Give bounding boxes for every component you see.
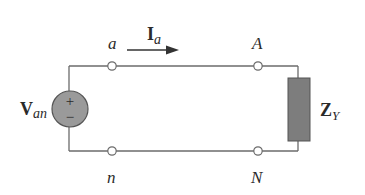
plus-sign: + [66, 93, 74, 109]
minus-sign: − [66, 109, 74, 125]
terminal-A-label: A [251, 34, 263, 53]
current-label-main: I [147, 24, 154, 44]
terminal-n-icon [108, 147, 116, 155]
current-label-sub: a [154, 32, 161, 47]
load-label-sub: Y [332, 108, 341, 123]
source-label: Van [20, 99, 47, 121]
load-impedance-icon [288, 78, 310, 141]
terminal-n-label: n [107, 168, 116, 187]
load-label: ZY [320, 100, 341, 123]
terminals [108, 62, 262, 155]
load-label-main: Z [320, 100, 332, 120]
terminal-a-label: a [108, 34, 117, 53]
source-label-main: V [20, 99, 33, 119]
current-arrow-icon [127, 46, 179, 55]
source-label-sub: an [33, 106, 47, 121]
terminal-N-icon [254, 147, 262, 155]
current-label: Ia [147, 24, 161, 47]
terminal-N-label: N [250, 168, 264, 187]
voltage-source: + − [52, 91, 88, 127]
terminal-A-icon [254, 62, 262, 70]
circuit-diagram: + − a A n N Ia Van ZY [0, 0, 365, 195]
terminal-a-icon [108, 62, 116, 70]
wires [69, 66, 298, 151]
